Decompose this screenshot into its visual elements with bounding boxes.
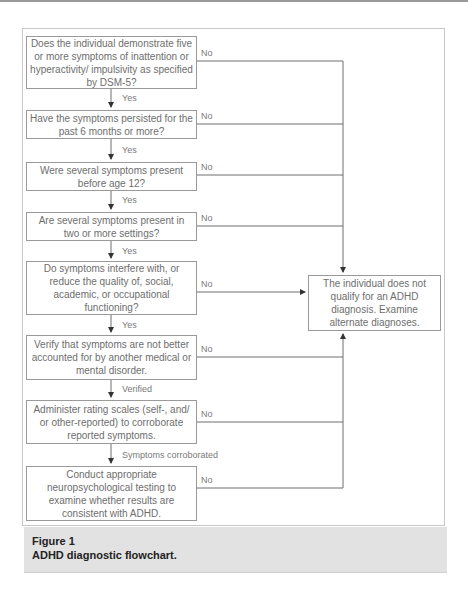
caption-title: Figure 1 (32, 534, 439, 548)
step-4-box: Are several symptoms present in two or m… (26, 212, 197, 241)
step-6-box: Verify that symptoms are not better acco… (26, 335, 197, 380)
step-7-text: Administer rating scales (self-, and/ or… (30, 403, 193, 442)
step-3-box: Were several symptoms present before age… (26, 162, 197, 191)
outcome-text: The individual does not qualify for an A… (315, 277, 434, 329)
step-7-no-label: No (201, 409, 213, 419)
step-2-box: Have the symptoms persisted for the past… (26, 110, 197, 139)
caption-text: ADHD diagnostic flowchart. (32, 548, 439, 562)
step-6-text: Verify that symptoms are not better acco… (30, 338, 193, 377)
step-8-text: Conduct appropriate neuropsychological t… (30, 468, 193, 520)
step-4-text: Are several symptoms present in two or m… (30, 214, 193, 240)
step-8-box: Conduct appropriate neuropsychological t… (26, 466, 197, 521)
step-8-no-label: No (201, 475, 213, 485)
step-1-yes-label: Yes (122, 93, 137, 103)
step-3-text: Were several symptoms present before age… (30, 164, 193, 190)
step-4-no-label: No (201, 213, 213, 223)
figure-caption: Figure 1 ADHD diagnostic flowchart. (24, 527, 447, 573)
step-5-box: Do symptoms interfere with, or reduce th… (26, 261, 197, 315)
step-3-yes-label: Yes (122, 195, 137, 205)
step-5-text: Do symptoms interfere with, or reduce th… (30, 262, 193, 314)
step-1-no-label: No (201, 48, 213, 58)
step-2-no-label: No (201, 111, 213, 121)
step-2-yes-label: Yes (122, 145, 137, 155)
step-5-no-label: No (201, 279, 213, 289)
step-6-yes-label: Verified (122, 384, 152, 394)
step-7-box: Administer rating scales (self-, and/ or… (26, 400, 197, 444)
step-6-no-label: No (201, 344, 213, 354)
step-5-yes-label: Yes (122, 320, 137, 330)
step-4-yes-label: Yes (122, 246, 137, 256)
step-2-text: Have the symptoms persisted for the past… (30, 112, 193, 138)
outcome-box: The individual does not qualify for an A… (308, 275, 441, 331)
step-1-box: Does the individual demonstrate five or … (26, 36, 197, 89)
step-3-no-label: No (201, 162, 213, 172)
step-1-text: Does the individual demonstrate five or … (30, 37, 193, 89)
step-7-yes-label: Symptoms corroborated (122, 450, 218, 460)
